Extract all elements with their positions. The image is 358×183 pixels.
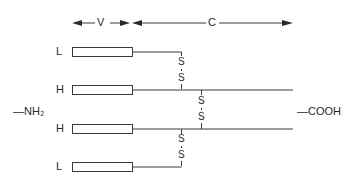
v-arrow-right-head	[120, 20, 130, 26]
disulfide-l1-h1-s-top: S	[178, 57, 185, 67]
carboxyl-terminal-label: —COOH	[297, 106, 341, 117]
light-chain-2-variable-box	[73, 163, 133, 172]
variable-region-label: V	[97, 17, 104, 28]
heavy-chain-1-label: H	[56, 84, 64, 95]
heavy-chain-1-variable-box	[73, 86, 133, 95]
disulfide-h2-l2-s-top: S	[178, 134, 185, 144]
amino-terminal-label: —NH₂	[13, 106, 44, 117]
c-arrow-right-head	[282, 20, 293, 26]
c-arrow-left-head	[132, 20, 142, 26]
disulfide-h1-h2-s-top: S	[198, 96, 205, 106]
disulfide-l1-h1-s-bottom: S	[178, 73, 185, 83]
heavy-chain-2-variable-box	[73, 125, 133, 134]
heavy-chain-2-label: H	[56, 123, 64, 134]
light-chain-1-label: L	[56, 46, 62, 57]
light-chain-1-variable-box	[73, 48, 133, 57]
disulfide-h1-h2-s-bottom: S	[198, 112, 205, 122]
v-arrow-left-head	[72, 20, 82, 26]
constant-region-label: C	[208, 17, 216, 28]
disulfide-h2-l2-s-bottom: S	[178, 150, 185, 160]
light-chain-2-label: L	[56, 161, 62, 172]
